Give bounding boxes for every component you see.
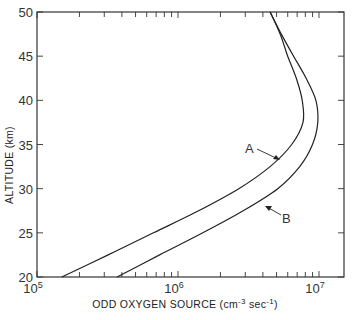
y-tick-label: 25 — [19, 226, 33, 241]
label-a: A — [245, 141, 254, 156]
x-axis-ticks: 105106107 — [23, 12, 324, 296]
y-tick-label: 40 — [19, 93, 33, 108]
y-tick-label: 30 — [19, 182, 33, 197]
curves — [62, 12, 318, 277]
x-axis-title: ODD OXYGEN SOURCE (cm-3 sec-1) — [92, 297, 277, 310]
arrowhead-b — [265, 206, 272, 211]
x-tick-label: 107 — [305, 280, 324, 296]
y-tick-label: 50 — [19, 5, 33, 20]
y-tick-label: 45 — [19, 49, 33, 64]
x-tick-label: 106 — [164, 280, 183, 296]
y-axis-ticks: 20253035404550 — [19, 5, 344, 285]
plot-frame — [37, 12, 344, 277]
y-tick-label: 35 — [19, 138, 33, 153]
curve-b — [117, 12, 318, 277]
y-tick-label: 20 — [19, 270, 33, 285]
label-b: B — [282, 211, 291, 226]
odd-oxygen-chart: 105106107 20253035404550 AB ALTITUDE (km… — [0, 0, 353, 320]
curve-a — [62, 12, 304, 277]
y-axis-title: ALTITUDE (km) — [3, 126, 15, 204]
plot-border — [37, 12, 344, 277]
